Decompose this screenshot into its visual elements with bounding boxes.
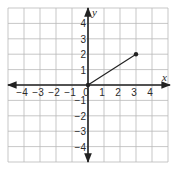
coordinate-plane: −4−3−2−101234−4−3−2−11234 x y <box>0 0 179 171</box>
y-tick-label: −4 <box>75 142 87 153</box>
point-marker <box>86 83 90 87</box>
x-tick-label: −2 <box>48 87 60 98</box>
x-tick-label: 1 <box>99 87 105 98</box>
y-tick-label: 1 <box>80 65 86 76</box>
x-tick-label: 3 <box>131 87 137 98</box>
x-tick-label: 4 <box>147 87 153 98</box>
point-marker <box>134 52 138 56</box>
y-tick-label: −3 <box>75 126 87 137</box>
y-tick-label: 3 <box>80 34 86 45</box>
y-tick-label: 4 <box>80 18 86 29</box>
x-tick-label: −3 <box>32 87 44 98</box>
y-axis-label: y <box>91 6 97 18</box>
x-axis-label: x <box>161 71 167 83</box>
x-tick-label: −4 <box>16 87 28 98</box>
y-tick-label: 2 <box>80 49 86 60</box>
x-tick-label: 2 <box>115 87 121 98</box>
y-tick-label: −2 <box>75 111 87 122</box>
y-tick-label: −1 <box>75 95 87 106</box>
